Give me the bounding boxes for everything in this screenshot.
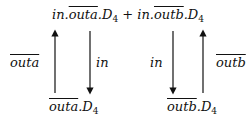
edge-label-left-down: in — [96, 56, 109, 70]
subscript: 4 — [198, 14, 204, 24]
term: outb — [167, 99, 197, 114]
subscript: 4 — [93, 106, 99, 116]
edge-label-left-up: outa — [10, 56, 39, 70]
term: .D — [184, 7, 199, 22]
bottom-left-node: outa.D4 — [49, 100, 98, 118]
edge-label-right-down: in — [150, 56, 163, 70]
term: outb — [154, 7, 184, 22]
bottom-right-node: outb.D4 — [167, 100, 217, 118]
term: .D — [78, 99, 93, 114]
term: in. — [52, 7, 69, 22]
subscript: 4 — [211, 106, 217, 116]
term: outa — [49, 99, 78, 114]
edge-label-right-up: outb — [216, 56, 246, 70]
top-node: in.outa.D4 + in.outb.D4 — [52, 8, 204, 26]
term: outa — [69, 7, 98, 22]
term: .D — [98, 7, 113, 22]
term: .D — [197, 99, 212, 114]
term: + in. — [118, 7, 154, 22]
